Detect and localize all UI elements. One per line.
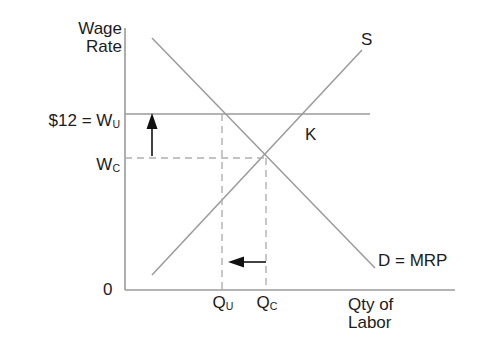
wage-floor-chart: WageRate Qty ofLabor $12 = WU WC 0 QU QC… xyxy=(0,0,484,357)
quantity-competitive-text: Q xyxy=(257,293,270,312)
wage-competitive-subscript: C xyxy=(112,162,120,174)
origin-label: 0 xyxy=(103,281,112,299)
supply-curve-label: S xyxy=(361,31,372,49)
x-axis-title-line1: Qty of xyxy=(348,295,393,314)
y-axis-title: WageRate xyxy=(46,20,122,57)
x-tick-label-quantity-union: QU xyxy=(205,294,241,312)
quantity-union-text: Q xyxy=(213,293,226,312)
quantity-union-subscript: U xyxy=(226,300,234,312)
demand-curve-label: D = MRP xyxy=(378,252,447,270)
x-tick-label-quantity-competitive: QC xyxy=(249,294,285,312)
y-tick-label-wage-competitive: WC xyxy=(8,156,120,174)
wage-union-subscript: U xyxy=(112,118,120,130)
wage-increase-arrow xyxy=(147,113,158,156)
quantity-competitive-subscript: C xyxy=(270,300,278,312)
supply-curve xyxy=(152,50,362,275)
quantity-decrease-arrow xyxy=(228,257,266,268)
wage-competitive-text: W xyxy=(96,155,112,174)
x-axis-title-line2: Labor xyxy=(348,313,391,332)
y-tick-label-wage-union: $12 = WU xyxy=(8,112,120,130)
point-k-label: K xyxy=(305,126,316,144)
x-axis-title: Qty ofLabor xyxy=(348,296,393,333)
y-axis-title-line1: Wage xyxy=(78,19,122,38)
wage-union-text: $12 = W xyxy=(49,111,113,130)
y-axis-title-line2: Rate xyxy=(86,37,122,56)
